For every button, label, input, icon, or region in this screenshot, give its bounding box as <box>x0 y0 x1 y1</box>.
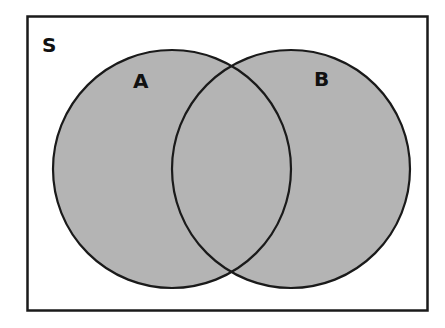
set-a-label: A <box>133 69 149 93</box>
venn-diagram: S A B <box>0 0 445 328</box>
universe-label: S <box>42 33 56 57</box>
set-b-label: B <box>314 67 329 91</box>
